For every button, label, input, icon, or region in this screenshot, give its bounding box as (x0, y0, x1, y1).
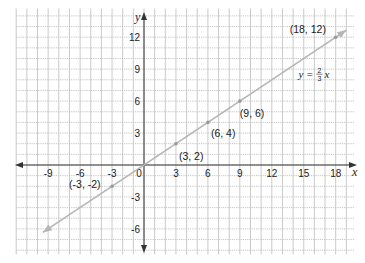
data-point (206, 121, 210, 125)
data-point (174, 142, 178, 146)
data-series (43, 30, 347, 232)
point-label: (6, 4) (211, 127, 236, 139)
equation-numerator: 2 (317, 67, 321, 74)
data-point (238, 99, 242, 103)
x-tick-label: 9 (237, 168, 243, 179)
x-tick-label: 15 (298, 168, 310, 179)
y-tick-label: -6 (131, 224, 140, 235)
data-point (110, 185, 114, 189)
y-tick-label: 6 (134, 96, 140, 107)
x-tick-label: 12 (266, 168, 278, 179)
equation-lhs: y = (297, 68, 313, 80)
equation-variable: x (323, 68, 329, 80)
y-axis-down-arrow-icon (141, 245, 147, 253)
series-line (43, 30, 347, 232)
point-label: (3, 2) (179, 150, 204, 162)
y-tick-label: 12 (129, 32, 141, 43)
y-tick-label: 9 (134, 64, 140, 75)
y-tick-label: 3 (134, 128, 140, 139)
equation-label: y =23x (297, 67, 329, 82)
point-label: (-3, -2) (69, 178, 101, 190)
x-tick-label: -9 (44, 168, 53, 179)
x-tick-label: 3 (173, 168, 179, 179)
x-tick-label: 6 (205, 168, 211, 179)
y-tick-label: -3 (131, 192, 140, 203)
x-tick-label: 18 (330, 168, 342, 179)
y-axis-label: y (134, 10, 141, 24)
x-axis-label: x (351, 165, 358, 179)
x-tick-label: -3 (108, 168, 117, 179)
grid (16, 8, 355, 254)
equation-denominator: 3 (317, 75, 321, 82)
point-label: (9, 6) (240, 107, 265, 119)
line-start-arrow-icon (43, 225, 52, 233)
coordinate-plane-chart: -9-6-3036912151812963-3-6 yx(-3, -2)(3, … (0, 0, 365, 263)
data-point (334, 35, 338, 39)
point-label: (18, 12) (290, 23, 326, 35)
